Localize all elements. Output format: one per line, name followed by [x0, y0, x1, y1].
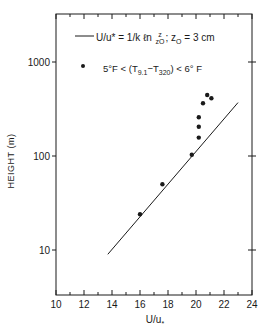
chart-canvas: 1012141618202224 101001000 — [0, 0, 264, 334]
legend-entry-line: U/u* = 1/k ℓn zzO; zO = 3 cm — [96, 31, 215, 45]
legend-text: 5°F < (T — [103, 63, 138, 74]
x-axis-title-subscript: * — [161, 320, 164, 327]
y-tick-label: 10 — [39, 245, 51, 256]
fraction-z-over-z0: zzO — [156, 31, 165, 45]
data-point — [197, 115, 201, 119]
x-tick-label: 16 — [134, 299, 146, 310]
legend-subscript: 320 — [159, 69, 171, 76]
data-point — [160, 182, 164, 186]
legend-text: −T — [147, 63, 158, 74]
data-point — [197, 124, 201, 128]
legend-subscript: 9.1 — [138, 69, 148, 76]
theory-line — [108, 103, 238, 255]
x-tick-label: 20 — [190, 299, 202, 310]
data-point — [201, 101, 205, 105]
legend-subscript: O — [176, 38, 181, 45]
x-tick-label: 18 — [162, 299, 174, 310]
data-points — [138, 93, 214, 217]
theory-line-path — [108, 103, 238, 255]
legend-marker-swatch — [81, 64, 85, 68]
data-point — [138, 212, 142, 216]
x-axis-title-text: U/u — [146, 314, 162, 325]
legend-entry-points: 5°F < (T9.1−T320) < 6° F — [103, 63, 202, 76]
legend-text: ; z — [166, 32, 177, 43]
y-axis-ticks — [52, 62, 256, 250]
legend-text: U/u — [96, 32, 112, 43]
y-axis-tick-labels: 101001000 — [28, 57, 51, 256]
denominator: zO — [156, 38, 165, 45]
data-point — [209, 96, 213, 100]
x-axis-tick-labels: 1012141618202224 — [50, 299, 258, 310]
data-point — [197, 135, 201, 139]
x-tick-label: 12 — [78, 299, 90, 310]
y-tick-label: 1000 — [28, 57, 51, 68]
x-axis-title: U/u* — [130, 314, 180, 327]
data-point — [205, 93, 209, 97]
legend-text: = 3 cm — [184, 32, 214, 43]
plot-frame — [56, 14, 252, 295]
y-axis-title: HEIGHT (m) — [6, 126, 16, 196]
x-tick-label: 24 — [246, 299, 258, 310]
y-tick-label: 100 — [33, 151, 50, 162]
x-tick-label: 22 — [218, 299, 230, 310]
x-tick-label: 14 — [106, 299, 118, 310]
x-tick-label: 10 — [50, 299, 62, 310]
numerator: z — [156, 31, 165, 38]
legend-text: ) < 6° F — [170, 63, 202, 74]
x-axis-ticks — [56, 14, 252, 295]
data-point — [190, 153, 194, 157]
legend-text: * = 1/k ℓn — [112, 32, 152, 43]
